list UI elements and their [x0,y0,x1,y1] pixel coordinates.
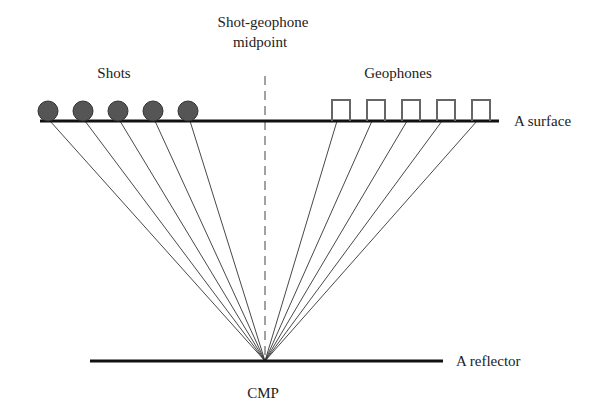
geophone-marker [367,100,385,121]
geophone-marker [472,100,490,121]
surface-label: A surface [514,113,571,129]
shot-marker [73,101,93,121]
shot-ray [190,121,265,361]
geophone-ray [265,121,337,361]
geophone-ray [265,121,407,361]
shot-ray [155,121,265,361]
cmp-diagram: Shot-geophone midpoint Shots Geophones A… [0,0,604,410]
reflector-label: A reflector [456,353,521,369]
midpoint-label-line2: midpoint [233,34,288,50]
shots-label: Shots [97,65,131,81]
geophone-ray [265,121,372,361]
shot-ray [120,121,265,361]
geophone-marker [332,100,350,121]
geophone-marker [437,100,455,121]
shot-ray [50,121,265,361]
ray-paths [50,121,477,361]
geophone-ray [265,121,442,361]
shot-marker [38,101,58,121]
geophone-ray [265,121,477,361]
shot-marker [178,101,198,121]
shot-ray [85,121,265,361]
geophone-marker [402,100,420,121]
midpoint-label-line1: Shot-geophone [218,14,309,30]
shots-group [38,101,198,121]
cmp-label: CMP [247,385,279,401]
shot-marker [143,101,163,121]
shot-marker [108,101,128,121]
geophones-label: Geophones [364,65,432,81]
geophones-group [332,100,490,121]
